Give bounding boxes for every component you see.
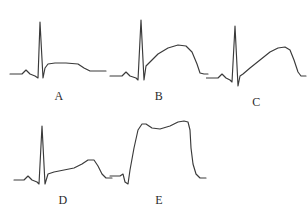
ecg-panel-label-d: D xyxy=(12,194,114,206)
ecg-trace-d xyxy=(12,112,114,192)
ecg-panel-a xyxy=(8,8,110,88)
ecg-trace-a xyxy=(8,8,110,88)
ecg-trace-c xyxy=(206,12,307,92)
ecg-panel-label-a: A xyxy=(8,90,110,102)
ecg-panel-label-b: B xyxy=(108,90,210,102)
ecg-trace-e xyxy=(108,108,210,192)
ecg-figure: A B C D E xyxy=(0,0,307,222)
ecg-panel-label-e: E xyxy=(108,194,210,206)
ecg-panel-e xyxy=(108,108,210,192)
ecg-panel-b xyxy=(108,8,210,88)
ecg-panel-c xyxy=(206,12,307,92)
ecg-trace-b xyxy=(108,8,210,88)
ecg-panel-label-c: C xyxy=(206,96,307,108)
ecg-panel-d xyxy=(12,112,114,192)
